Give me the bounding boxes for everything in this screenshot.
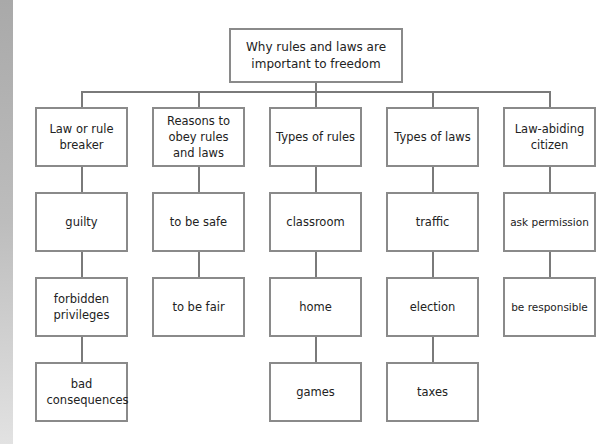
node-classroom: classroom	[269, 192, 362, 252]
root-node-label: Why rules and laws are important to free…	[235, 39, 397, 73]
node-forbidden-privileges: forbidden privileges	[35, 277, 128, 337]
connector	[81, 252, 83, 277]
node-label: traffic	[416, 214, 450, 230]
root-node: Why rules and laws are important to free…	[229, 28, 403, 83]
node-label: bad consequences	[47, 376, 117, 408]
connector	[549, 252, 551, 277]
node-to-be-safe: to be safe	[152, 192, 245, 252]
connector	[198, 91, 200, 107]
node-label: be responsible	[511, 299, 588, 315]
node-be-responsible: be responsible	[503, 277, 596, 337]
node-label: Types of laws	[394, 129, 470, 145]
node-label: games	[296, 384, 335, 400]
node-label: classroom	[286, 214, 344, 230]
column-heading-reasons: Reasons to obey rules and laws	[152, 107, 245, 167]
connector	[315, 167, 317, 192]
node-bad-consequences: bad consequences	[35, 362, 128, 422]
node-label: to be safe	[170, 214, 227, 230]
node-label: Reasons to obey rules and laws	[163, 113, 235, 161]
node-label: home	[299, 299, 332, 315]
node-home: home	[269, 277, 362, 337]
node-label: forbidden privileges	[47, 291, 117, 323]
node-taxes: taxes	[386, 362, 479, 422]
connector	[549, 167, 551, 192]
node-label: to be fair	[172, 299, 224, 315]
connector	[432, 91, 434, 107]
node-label: Law-abiding citizen	[514, 121, 586, 153]
connector	[315, 337, 317, 362]
connector	[198, 252, 200, 277]
connector	[432, 252, 434, 277]
connector	[432, 337, 434, 362]
node-to-be-fair: to be fair	[152, 277, 245, 337]
page-edge-shadow	[0, 0, 13, 444]
connector	[315, 83, 317, 91]
node-ask-permission: ask permission	[503, 192, 596, 252]
connector	[81, 91, 83, 107]
node-label: ask permission	[510, 214, 589, 230]
node-guilty: guilty	[35, 192, 128, 252]
node-label: guilty	[65, 214, 97, 230]
node-games: games	[269, 362, 362, 422]
node-label: Types of rules	[276, 129, 355, 145]
column-heading-types-of-laws: Types of laws	[386, 107, 479, 167]
node-election: election	[386, 277, 479, 337]
connector	[198, 167, 200, 192]
node-label: taxes	[417, 384, 448, 400]
node-label: Law or rule breaker	[41, 121, 122, 153]
column-heading-types-of-rules: Types of rules	[269, 107, 362, 167]
column-heading-law-breaker: Law or rule breaker	[35, 107, 128, 167]
connector	[81, 337, 83, 362]
connector	[432, 167, 434, 192]
connector	[315, 252, 317, 277]
column-heading-law-abiding-citizen: Law-abiding citizen	[503, 107, 596, 167]
connector	[549, 91, 551, 107]
node-traffic: traffic	[386, 192, 479, 252]
connector	[315, 91, 317, 107]
node-label: election	[410, 299, 456, 315]
connector	[81, 167, 83, 192]
